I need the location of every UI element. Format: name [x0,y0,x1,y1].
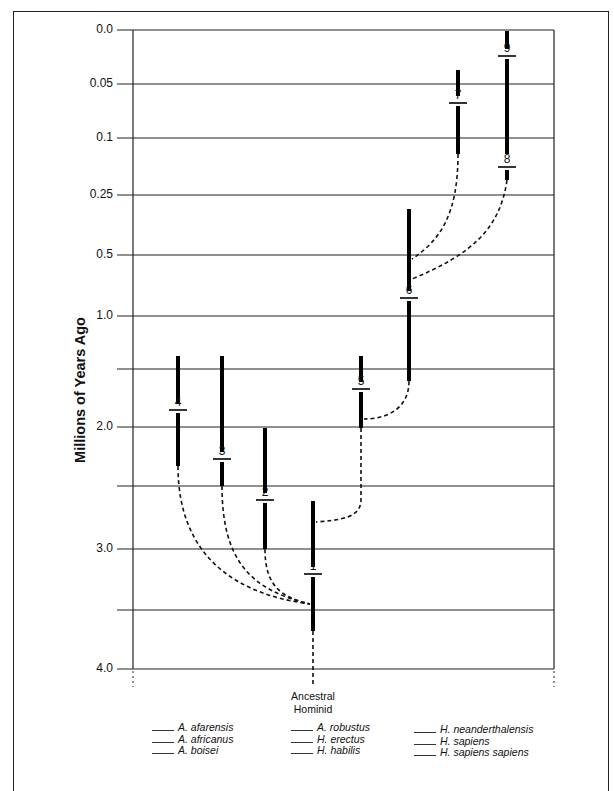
legend-column-2: A. robustus H. erectus H. habilis [291,722,370,757]
ancestral-hominid-label: Ancestral Hominid [291,690,335,716]
bar-label-8: 8 [504,152,511,166]
answer-blank[interactable] [414,732,436,733]
bar-label-7: 7 [455,88,462,102]
lineage-connector [178,466,310,604]
y-tick-label: 0.1 [53,130,113,144]
bar-label-4: 4 [175,395,182,409]
lineage-connector [412,154,458,259]
answer-blank[interactable] [152,742,174,743]
y-tick-label: 0.0 [53,22,113,36]
answer-blank[interactable] [414,744,436,745]
answer-blank[interactable] [291,730,313,731]
y-tick-label: 4.0 [53,661,113,675]
bar-label-6: 6 [406,283,413,297]
answer-blank[interactable] [152,730,174,731]
legend-item[interactable]: A. boisei [152,745,233,757]
answer-blank[interactable] [414,755,436,756]
lineage-connector [265,549,310,604]
y-tick-label: 3.0 [53,541,113,555]
lineage-connector [316,428,361,522]
legend-column-1: A. afarensis A. africanus A. boisei [152,722,233,757]
legend-item[interactable]: H. sapiens sapiens [414,747,533,759]
answer-blank[interactable] [291,753,313,754]
bar-label-5: 5 [358,374,365,388]
bar-label-3: 3 [219,444,226,458]
y-tick-label: 0.5 [53,247,113,261]
answer-blank[interactable] [291,742,313,743]
bar-label-2: 2 [262,485,269,499]
bar-label-1: 1 [310,559,317,573]
y-tick-label: 0.25 [53,187,113,201]
legend-item[interactable]: H. habilis [291,745,370,757]
legend-column-3: H. neanderthalensis H. sapiens H. sapien… [414,724,533,759]
lineage-connector [364,381,409,419]
y-tick-label: 0.05 [53,76,113,90]
answer-blank[interactable] [152,753,174,754]
bar-label-9: 9 [504,41,511,55]
y-axis-label: Millions of Years Ago [72,317,88,463]
